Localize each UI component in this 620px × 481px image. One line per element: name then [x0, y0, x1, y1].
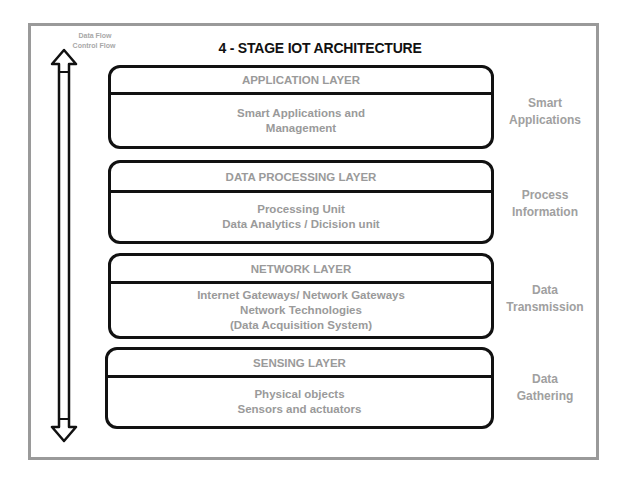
- bidirectional-arrow-icon: [50, 48, 78, 443]
- layer-line: Processing Unit: [257, 202, 345, 217]
- side-line: Data: [500, 371, 590, 388]
- side-label-network: Data Transmission: [500, 282, 590, 316]
- layer-header: DATA PROCESSING LAYER: [111, 163, 491, 193]
- data-processing-layer: DATA PROCESSING LAYER Processing Unit Da…: [108, 160, 494, 244]
- side-line: Information: [500, 204, 590, 221]
- layer-line: Physical objects: [254, 387, 344, 402]
- layer-header: APPLICATION LAYER: [111, 68, 491, 95]
- layer-body: Internet Gateways/ Network Gateways Netw…: [111, 284, 491, 336]
- layer-body: Physical objects Sensors and actuators: [108, 378, 491, 426]
- data-flow-label: Data Flow: [70, 31, 120, 41]
- side-line: Data: [500, 282, 590, 299]
- side-line: Transmission: [500, 299, 590, 316]
- layer-header: SENSING LAYER: [108, 350, 491, 378]
- layer-body: Smart Applications and Management: [111, 95, 491, 146]
- side-line: Smart: [500, 95, 590, 112]
- side-label-sensing: Data Gathering: [500, 371, 590, 405]
- network-layer: NETWORK LAYER Internet Gateways/ Network…: [108, 253, 494, 339]
- layer-line: Internet Gateways/ Network Gateways: [197, 288, 405, 303]
- side-label-processing: Process Information: [500, 187, 590, 221]
- layer-body: Processing Unit Data Analytics / Dicisio…: [111, 193, 491, 241]
- layer-line: Network Technologies: [240, 303, 362, 318]
- side-line: Applications: [500, 112, 590, 129]
- layer-line: Smart Applications and: [237, 106, 365, 121]
- sensing-layer: SENSING LAYER Physical objects Sensors a…: [105, 347, 494, 429]
- application-layer: APPLICATION LAYER Smart Applications and…: [108, 65, 494, 149]
- layer-line: (Data Acquisition System): [230, 318, 372, 333]
- layer-line: Data Analytics / Dicision unit: [222, 217, 379, 232]
- layer-line: Management: [266, 121, 336, 136]
- layer-line: Sensors and actuators: [238, 402, 362, 417]
- diagram-title: 4 - STAGE IOT ARCHITECTURE: [170, 40, 470, 56]
- layer-header: NETWORK LAYER: [111, 256, 491, 284]
- side-label-application: Smart Applications: [500, 95, 590, 129]
- side-line: Process: [500, 187, 590, 204]
- side-line: Gathering: [500, 388, 590, 405]
